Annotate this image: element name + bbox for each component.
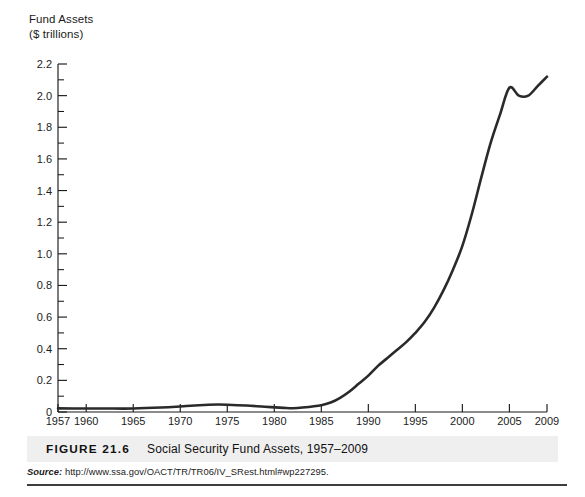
source-label: Source: xyxy=(27,466,62,477)
svg-text:2.0: 2.0 xyxy=(37,90,52,102)
svg-text:1980: 1980 xyxy=(262,415,286,427)
svg-text:1.2: 1.2 xyxy=(37,216,52,228)
svg-text:0.2: 0.2 xyxy=(37,374,52,386)
svg-text:1957: 1957 xyxy=(46,415,70,427)
svg-text:1975: 1975 xyxy=(215,415,239,427)
svg-text:2009: 2009 xyxy=(535,415,559,427)
svg-text:2000: 2000 xyxy=(450,415,474,427)
line-chart-plot: 00.20.40.60.81.01.21.41.61.82.02.2 19571… xyxy=(0,0,585,432)
svg-text:1995: 1995 xyxy=(403,415,427,427)
svg-text:1970: 1970 xyxy=(168,415,192,427)
fund-assets-line xyxy=(58,77,547,409)
svg-text:1.0: 1.0 xyxy=(37,248,52,260)
figure-caption-bar: FIGURE 21.6 Social Security Fund Assets,… xyxy=(27,436,558,462)
svg-text:0.4: 0.4 xyxy=(37,343,52,355)
svg-text:2005: 2005 xyxy=(497,415,521,427)
y-axis-ticks: 00.20.40.60.81.01.21.41.61.82.02.2 xyxy=(37,58,67,418)
svg-text:1.6: 1.6 xyxy=(37,153,52,165)
source-note: Source: http://www.ssa.gov/OACT/TR/TR06/… xyxy=(27,466,329,477)
source-url: http://www.ssa.gov/OACT/TR/TR06/IV_SRest… xyxy=(65,466,329,477)
svg-text:1965: 1965 xyxy=(121,415,145,427)
svg-text:1.8: 1.8 xyxy=(37,121,52,133)
bottom-divider xyxy=(27,484,567,486)
svg-text:1990: 1990 xyxy=(356,415,380,427)
figure-container: Fund Assets ($ trillions) 00.20.40.60.81… xyxy=(0,0,585,497)
svg-text:0.6: 0.6 xyxy=(37,311,52,323)
figure-title: Social Security Fund Assets, 1957–2009 xyxy=(147,442,368,456)
svg-text:2.2: 2.2 xyxy=(37,58,52,70)
chart-area: Fund Assets ($ trillions) 00.20.40.60.81… xyxy=(0,0,585,432)
svg-text:0.8: 0.8 xyxy=(37,279,52,291)
svg-text:1985: 1985 xyxy=(309,415,333,427)
svg-text:1960: 1960 xyxy=(74,415,98,427)
figure-number: FIGURE 21.6 xyxy=(46,442,130,456)
svg-text:1.4: 1.4 xyxy=(37,185,52,197)
